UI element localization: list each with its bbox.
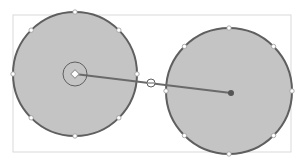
resize-handle[interactable] <box>227 26 231 30</box>
resize-handle[interactable] <box>73 134 77 138</box>
resize-handle[interactable] <box>73 10 77 14</box>
resize-handle[interactable] <box>290 89 294 93</box>
resize-handle[interactable] <box>11 72 15 76</box>
diagram-canvas <box>0 0 303 163</box>
resize-handle[interactable] <box>182 133 186 137</box>
resize-handle[interactable] <box>271 44 275 48</box>
resize-handle[interactable] <box>271 133 275 137</box>
resize-handle[interactable] <box>117 28 121 32</box>
resize-handle[interactable] <box>29 28 33 32</box>
resize-handle[interactable] <box>135 72 139 76</box>
resize-handle[interactable] <box>182 44 186 48</box>
resize-handle[interactable] <box>164 89 168 93</box>
resize-handle[interactable] <box>117 116 121 120</box>
resize-handle[interactable] <box>227 152 231 156</box>
resize-handle[interactable] <box>29 116 33 120</box>
connector-end-handle[interactable] <box>228 90 234 96</box>
connector-midpoint-handle[interactable] <box>147 79 155 87</box>
